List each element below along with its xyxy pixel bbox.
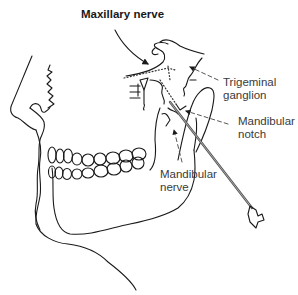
label-mandibular-notch-1: Mandibular: [238, 115, 295, 128]
label-trigeminal-ganglion-1: Trigeminal: [223, 76, 276, 89]
pterygoid-plate: [140, 78, 148, 90]
nose-outline: [11, 56, 36, 130]
label-trigeminal-ganglion-2: ganglion: [223, 89, 266, 102]
nasal-aperture: [47, 65, 54, 108]
zygomatic-arch: [126, 43, 168, 77]
label-maxillary-nerve: Maxillary nerve: [81, 8, 164, 21]
label-mandibular-notch-2: notch: [238, 128, 266, 141]
skull-diagram: [0, 0, 298, 295]
maxillary-nerve-pointer: [115, 30, 148, 64]
label-mandibular-nerve-1: Mandibular: [160, 168, 217, 181]
mandibular-notch-pointer: [186, 111, 228, 124]
needle-hub: [248, 206, 264, 228]
label-mandibular-nerve-2: nerve: [160, 181, 189, 194]
condyle-outline: [178, 88, 214, 160]
